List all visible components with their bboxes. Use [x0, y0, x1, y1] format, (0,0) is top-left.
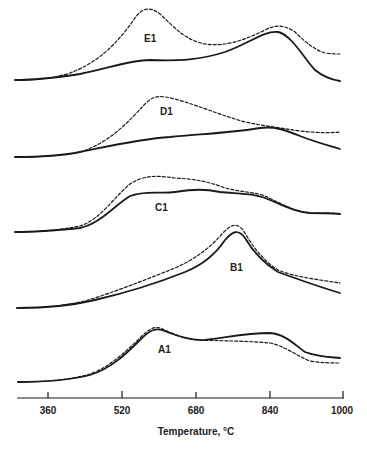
- curve-b1-dashed: [17, 225, 340, 308]
- curve-b1-solid: [17, 232, 340, 308]
- curve-label-b1: B1: [230, 262, 243, 273]
- curve-c1-dashed: [15, 176, 340, 232]
- tpd-chart: E1 D1 C1 B1 A1 360 520 680 840 1000 Temp…: [0, 0, 367, 453]
- curve-e1-solid: [15, 32, 340, 81]
- x-tick-520: 520: [114, 405, 131, 416]
- x-tick-1000: 1000: [331, 405, 354, 416]
- x-tick-360: 360: [40, 405, 57, 416]
- curve-c1-solid: [15, 190, 340, 232]
- curve-label-e1: E1: [144, 33, 157, 44]
- x-axis-title: Temperature, °C: [158, 426, 235, 437]
- curve-e1-dashed: [15, 9, 340, 80]
- curve-label-a1: A1: [158, 344, 171, 355]
- curve-label-d1: D1: [160, 106, 173, 117]
- curve-d1-solid: [15, 127, 340, 157]
- curve-label-c1: C1: [155, 202, 168, 213]
- curve-a1-solid: [18, 329, 340, 382]
- x-axis: 360 520 680 840 1000 Temperature, °C: [17, 391, 354, 437]
- x-tick-840: 840: [262, 405, 279, 416]
- x-tick-680: 680: [188, 405, 205, 416]
- curve-d1-dashed: [15, 97, 340, 157]
